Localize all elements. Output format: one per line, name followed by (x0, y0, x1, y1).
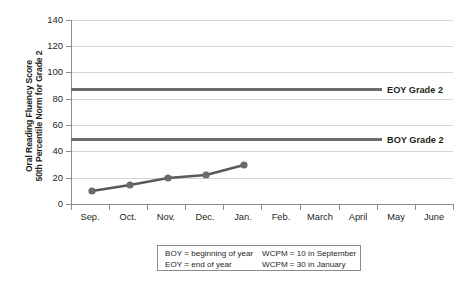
note-boy-term: BOY = beginning of year (165, 249, 251, 259)
x-tick-feb: Feb. (272, 212, 291, 222)
note-eoy-term: EOY = end of year (165, 260, 251, 270)
notes-grid: BOY = beginning of year WCPM = 10 in Sep… (165, 249, 356, 269)
x-tick-oct: Oct. (119, 212, 136, 222)
note-wcpm-sep: WCPM = 10 in September (262, 249, 356, 259)
x-tick-sep: Sep. (80, 212, 99, 222)
x-tick-march: March (307, 212, 333, 222)
note-wcpm-jan: WCPM = 30 in January (262, 260, 356, 270)
notes-legend-box: BOY = beginning of year WCPM = 10 in Sep… (157, 245, 361, 271)
oral-reading-fluency-chart: Oral Reading Fluency Score 50th Percenti… (0, 0, 459, 288)
x-tick-dec: Dec. (195, 212, 214, 222)
x-tick-may: May (387, 212, 405, 222)
x-tick-april: April (349, 212, 368, 222)
x-tick-june: June (424, 212, 444, 222)
x-tick-nov: Nov. (157, 212, 175, 222)
x-tick-jan: Jan. (234, 212, 252, 222)
